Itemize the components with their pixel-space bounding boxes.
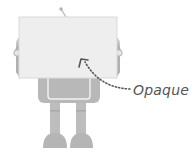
robot-legs — [50, 103, 86, 135]
opaque-board — [19, 17, 117, 78]
opaque-label: Opaque — [133, 82, 189, 98]
antenna — [59, 7, 66, 17]
robot-feet — [43, 133, 93, 148]
robot-illustration — [0, 0, 195, 153]
